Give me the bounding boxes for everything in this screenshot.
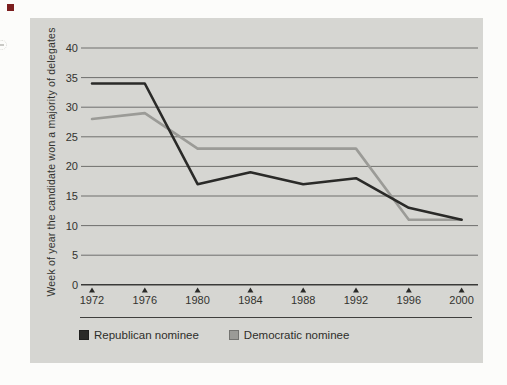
- x-tick-marker-1996: [406, 288, 412, 293]
- legend-item-republican: Republican nominee: [79, 329, 199, 341]
- series-line-republican-nominee: [92, 84, 462, 220]
- x-tick-label-1980: 1980: [185, 294, 209, 306]
- x-tick-marker-1972: [89, 288, 95, 293]
- x-tick-label-1984: 1984: [238, 294, 262, 306]
- x-tick-marker-1984: [247, 288, 253, 293]
- republican-swatch: [79, 330, 89, 340]
- y-tick-label-35: 35: [66, 72, 78, 84]
- democratic-swatch: [229, 330, 239, 340]
- y-tick-label-10: 10: [66, 220, 78, 232]
- x-tick-marker-1980: [195, 288, 201, 293]
- y-tick-label-0: 0: [72, 279, 78, 291]
- y-tick-label-30: 30: [66, 101, 78, 113]
- y-tick-label-15: 15: [66, 190, 78, 202]
- x-tick-label-1996: 1996: [397, 294, 421, 306]
- x-tick-label-2000: 2000: [449, 294, 473, 306]
- legend-label-republican: Republican nominee: [94, 329, 199, 341]
- x-tick-label-1976: 1976: [133, 294, 157, 306]
- y-tick-label-40: 40: [66, 42, 78, 54]
- legend-item-democratic: Democratic nominee: [229, 329, 349, 341]
- x-tick-marker-1992: [353, 288, 359, 293]
- legend-separator-line: [80, 317, 472, 318]
- x-tick-label-1992: 1992: [344, 294, 368, 306]
- y-tick-label-20: 20: [66, 160, 78, 172]
- figure: Week of year the candidate won a majorit…: [0, 0, 507, 385]
- legend-label-democratic: Democratic nominee: [244, 329, 349, 341]
- x-tick-label-1988: 1988: [291, 294, 315, 306]
- x-tick-marker-1988: [300, 288, 306, 293]
- x-tick-label-1972: 1972: [80, 294, 104, 306]
- y-tick-label-5: 5: [72, 249, 78, 261]
- x-tick-marker-1976: [142, 288, 148, 293]
- y-tick-label-25: 25: [66, 131, 78, 143]
- chart-canvas: 0510152025303540197219761980198419881992…: [0, 0, 507, 385]
- x-tick-marker-2000: [459, 288, 465, 293]
- legend: Republican nominee Democratic nominee: [79, 329, 349, 341]
